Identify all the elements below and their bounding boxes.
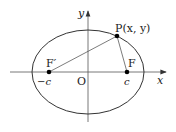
focus-left-label: F′ <box>46 57 57 70</box>
focus-right-point <box>125 70 130 75</box>
left-c-label: −c <box>37 76 51 87</box>
segment-F-prime-P <box>49 36 117 72</box>
ellipse-diagram: y x O P(x, y) F′ F −c c <box>0 0 176 132</box>
point-P-label: P(x, y) <box>115 22 150 35</box>
right-c-label: c <box>124 76 130 87</box>
x-axis-label: x <box>157 74 164 87</box>
focus-right-label: F <box>128 57 136 70</box>
origin-label: O <box>77 75 86 88</box>
y-axis-label: y <box>77 7 85 20</box>
focus-left-point <box>47 70 52 75</box>
